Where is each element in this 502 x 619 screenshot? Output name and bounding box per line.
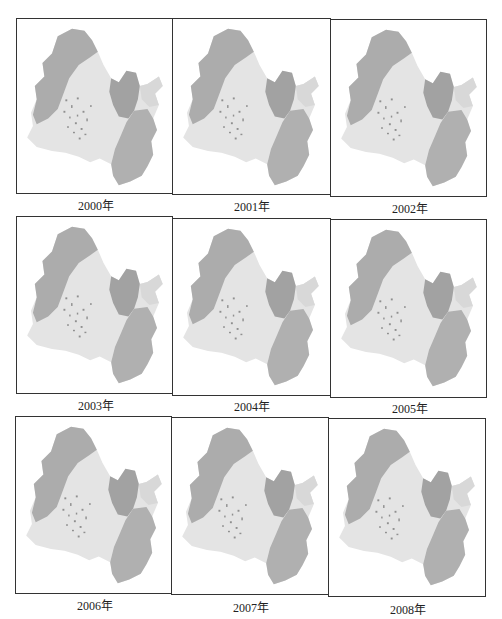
map-panel-2008 — [328, 418, 486, 597]
map-image — [17, 217, 172, 393]
map-panel-2004 — [172, 218, 331, 396]
map-image — [172, 418, 328, 594]
map-panel-2005 — [330, 219, 487, 398]
year-label: 2007年 — [171, 598, 331, 616]
map-panel-2003 — [16, 216, 173, 394]
year-label: 2006年 — [15, 596, 175, 614]
year-label: 2003年 — [16, 396, 176, 414]
map-image — [16, 417, 171, 593]
map-image — [331, 20, 486, 196]
map-image — [329, 419, 485, 596]
year-label: 2001年 — [172, 197, 332, 215]
year-label: 2000年 — [16, 196, 176, 214]
map-panel-2002 — [330, 19, 487, 197]
map-image — [173, 219, 330, 395]
year-label: 2005年 — [330, 399, 490, 417]
map-panel-2000 — [16, 18, 173, 194]
map-panel-2001 — [172, 18, 331, 195]
year-label: 2008年 — [328, 600, 488, 618]
year-label: 2004年 — [172, 397, 332, 415]
map-panel-2006 — [15, 416, 172, 594]
year-label: 2002年 — [330, 199, 490, 217]
map-image — [17, 19, 172, 193]
map-image — [331, 220, 486, 397]
map-image — [173, 19, 330, 194]
map-panel-2007 — [171, 417, 329, 595]
